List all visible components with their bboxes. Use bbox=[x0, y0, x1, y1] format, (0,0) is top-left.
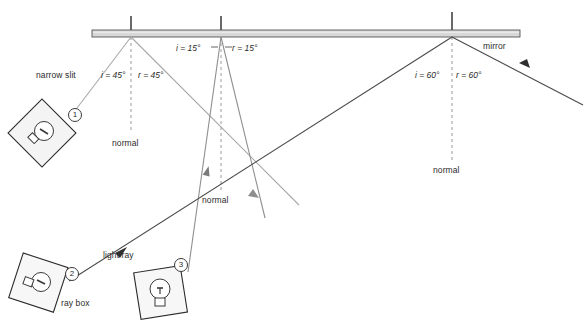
normal-label-2: normal bbox=[202, 195, 229, 205]
normal-stubs-above-mirror bbox=[131, 12, 452, 30]
reflection-diagram: mirror normal normal normal i = 45° r = … bbox=[0, 0, 587, 328]
ray-box-label: ray box bbox=[61, 298, 90, 308]
ray-box-2[interactable] bbox=[9, 253, 68, 312]
mirror-label: mirror bbox=[483, 41, 506, 51]
ray-box-3[interactable] bbox=[134, 266, 188, 320]
ray-box-badge-3: 3 bbox=[174, 258, 188, 272]
angle-reflected-60: r = 60° bbox=[456, 70, 481, 80]
normal-label-3: normal bbox=[433, 165, 460, 175]
normal-label-1: normal bbox=[112, 138, 139, 148]
ray-path-3 bbox=[188, 37, 265, 272]
angle-reflected-15: r = 15° bbox=[232, 43, 257, 53]
narrow-slit-label: narrow slit bbox=[36, 70, 76, 80]
angle-incident-15: i = 15° bbox=[176, 43, 200, 53]
mirror-bar bbox=[92, 30, 520, 37]
ray-box-badge-1: 1 bbox=[68, 108, 82, 122]
ray-box-badge-2: 2 bbox=[65, 267, 79, 281]
angle-reflected-45: r = 45° bbox=[138, 70, 163, 80]
ray-box-1[interactable] bbox=[8, 99, 76, 167]
angle-incident-45: i = 45° bbox=[101, 70, 125, 80]
angle-incident-60: i = 60° bbox=[415, 70, 439, 80]
normal-dashed-lines bbox=[131, 37, 452, 190]
ray-path-1 bbox=[74, 37, 299, 205]
light-ray-label: light ray bbox=[103, 250, 134, 260]
